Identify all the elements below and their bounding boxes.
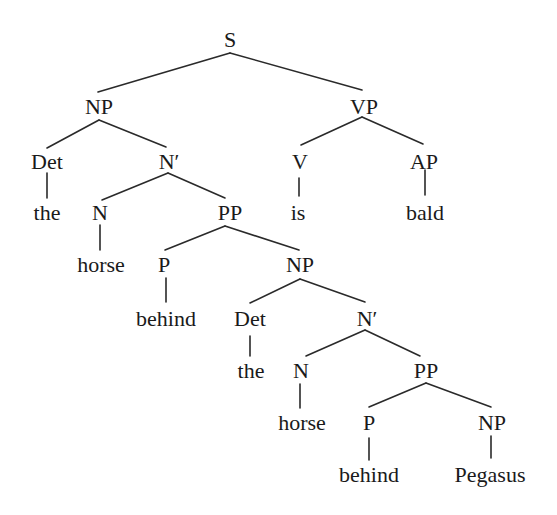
edge-NP2-Nbar2 (300, 279, 365, 302)
edge-S-VP (230, 53, 362, 90)
syntax-tree-diagram: SNPVPDetN′VAPtheNPPisbaldhorsePNPbehindD… (0, 0, 557, 515)
node-Det2: Det (234, 308, 266, 330)
node-Pegasus: Pegasus (455, 464, 526, 486)
node-behind1: behind (136, 308, 196, 330)
node-Nbar1: N′ (159, 151, 180, 173)
edge-NP1-Det1 (47, 120, 99, 148)
node-VP: VP (350, 96, 378, 118)
edge-PP1-NP2 (225, 226, 299, 250)
edge-VP-AP (362, 117, 423, 144)
edge-NP2-Det2 (250, 279, 300, 303)
node-NP1: NP (85, 96, 113, 118)
edge-PP2-NP3 (426, 383, 491, 407)
edge-S-NP1 (98, 53, 230, 92)
node-N1: N (92, 202, 108, 224)
edge-Nbar1-PP1 (168, 173, 225, 198)
node-Nbar2: N′ (357, 308, 378, 330)
node-V: V (292, 151, 308, 173)
node-behind2: behind (339, 464, 399, 486)
node-S: S (224, 29, 236, 51)
edge-Nbar2-PP2 (365, 330, 420, 356)
node-the2: the (238, 360, 265, 382)
node-Det1: Det (31, 151, 63, 173)
node-P1: P (158, 254, 170, 276)
edge-Nbar1-N1 (102, 173, 168, 200)
node-N2: N (293, 360, 309, 382)
edge-Nbar2-N2 (306, 330, 365, 356)
node-PP1: PP (218, 202, 242, 224)
node-NP2: NP (286, 254, 314, 276)
node-bald: bald (406, 202, 444, 224)
node-PP2: PP (414, 360, 438, 382)
node-horse2: horse (278, 412, 326, 434)
node-P2: P (363, 412, 375, 434)
node-NP3: NP (478, 412, 506, 434)
node-AP: AP (410, 151, 438, 173)
edge-NP1-Nbar1 (99, 120, 166, 147)
node-is: is (291, 202, 306, 224)
node-the1: the (34, 202, 61, 224)
node-horse1: horse (77, 254, 125, 276)
edge-VP-V (301, 117, 362, 145)
edge-PP1-P1 (165, 226, 225, 250)
edge-PP2-P2 (369, 383, 426, 407)
